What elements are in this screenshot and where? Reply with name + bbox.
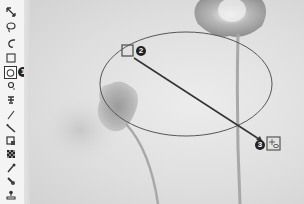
tools-panel: 1 — [0, 0, 24, 204]
drag-end-marker — [267, 137, 280, 150]
pen-icon — [5, 122, 17, 134]
line-tool[interactable] — [4, 109, 18, 121]
ellipse-marquee-icon — [5, 67, 16, 79]
smudge-icon — [5, 175, 17, 187]
line-icon — [5, 109, 17, 121]
lasso-tool[interactable] — [4, 21, 18, 33]
pen-tool[interactable] — [4, 122, 18, 134]
pattern-icon — [5, 148, 17, 160]
eyedropper-tool[interactable] — [4, 162, 18, 174]
drag-arrow — [134, 58, 262, 141]
quick-selection-tool[interactable] — [4, 38, 18, 50]
flower-photo — [30, 0, 304, 204]
move-icon — [5, 6, 17, 18]
callout-3: 3 — [255, 140, 265, 150]
clone-stamp-icon — [5, 94, 17, 106]
stamp-icon — [5, 189, 17, 201]
crop-tool[interactable] — [4, 135, 18, 147]
quick-selection-icon — [5, 38, 17, 50]
rectangle-marquee-icon — [5, 52, 17, 64]
smudge-tool[interactable] — [4, 175, 18, 187]
spot-healing-tool[interactable] — [4, 80, 18, 92]
crop-icon — [5, 135, 17, 147]
pattern-tool[interactable] — [4, 148, 18, 160]
image-canvas[interactable]: 2 3 — [30, 0, 304, 204]
spot-healing-icon — [5, 80, 17, 92]
drag-start-marker — [122, 45, 133, 56]
clone-stamp-tool[interactable] — [4, 94, 18, 106]
stamp-tool[interactable] — [4, 189, 18, 201]
callout-2: 2 — [136, 46, 146, 56]
lasso-icon — [5, 21, 17, 33]
rectangular-marquee-tool[interactable] — [4, 52, 18, 64]
crosshair-cursor-icon — [269, 139, 279, 148]
eyedropper-icon — [5, 162, 17, 174]
elliptical-marquee-tool[interactable] — [4, 66, 17, 79]
move-tool[interactable] — [4, 6, 18, 18]
